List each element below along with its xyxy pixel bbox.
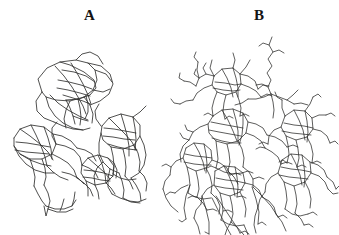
wire-segment — [313, 129, 330, 143]
wire-segment — [265, 173, 278, 192]
wire-segment — [106, 183, 115, 194]
wire-segment — [312, 161, 321, 163]
wire-segment — [295, 213, 304, 225]
wire-segment — [310, 162, 327, 177]
wire-segment — [46, 97, 83, 130]
wire-segment — [228, 171, 238, 184]
wire-segment — [305, 97, 313, 111]
wire-segment — [95, 185, 99, 199]
wire-segment — [203, 63, 206, 74]
wire-segment — [238, 141, 244, 167]
wire-segment — [242, 171, 253, 173]
wire-segment — [184, 81, 196, 86]
wire-segment — [235, 167, 238, 197]
wire-segment — [194, 69, 199, 78]
wire-segment — [86, 181, 88, 196]
panel-label-a: A — [84, 8, 95, 23]
wire-segment — [296, 140, 299, 167]
wire-segment — [20, 129, 53, 160]
wire-segment — [208, 109, 248, 144]
wire-segment — [216, 168, 242, 174]
wire-segment — [282, 100, 285, 116]
wire-segment — [201, 185, 214, 204]
wire-segment — [66, 100, 75, 124]
wire-segment — [42, 159, 46, 185]
wire-segment — [179, 219, 186, 222]
wire-group-A-cluster-lower-left — [14, 122, 98, 212]
wire-segment — [240, 74, 258, 89]
wire-segment — [240, 114, 249, 116]
wire-segment — [60, 199, 64, 211]
wire-group-A-cluster-lower-middle — [81, 155, 117, 199]
wire-segment — [261, 94, 272, 97]
wire-segment — [227, 144, 230, 171]
wire-segment — [103, 136, 135, 140]
wire-group-B-cluster-left-lower — [163, 143, 230, 214]
wire-segment — [233, 53, 235, 68]
wire-segment — [179, 73, 184, 81]
wire-segment — [271, 94, 294, 104]
wire-segment — [224, 166, 235, 196]
wire-segment — [162, 164, 171, 167]
wire-segment — [184, 162, 211, 165]
wire-segment — [84, 97, 93, 123]
wire-segment — [196, 74, 214, 86]
wire-segment — [307, 137, 313, 163]
wire-segment — [98, 155, 106, 183]
wire-segment — [212, 68, 241, 95]
wire-segment — [215, 82, 241, 85]
wire-segment — [48, 209, 73, 212]
wire-segment — [88, 63, 113, 105]
wire-segment — [197, 197, 207, 210]
wire-segment — [236, 92, 241, 116]
wire-segment — [123, 149, 126, 176]
wire-segment — [253, 187, 278, 217]
wire-segment — [256, 84, 268, 87]
wire-segment — [256, 147, 265, 149]
wire-segment — [278, 154, 311, 186]
wire-group-B-cluster-bottom-middle — [194, 166, 276, 233]
wire-segment — [294, 103, 308, 105]
wire-segment — [262, 197, 276, 214]
wire-segment — [268, 127, 281, 144]
wire-segment — [99, 133, 119, 173]
wire-segment — [221, 220, 244, 226]
wire-segment — [47, 166, 68, 180]
wire-group-B-upper-fringe — [210, 43, 308, 105]
wire-segment — [216, 178, 245, 183]
wire-segment — [171, 99, 180, 104]
wire-segment — [267, 37, 273, 94]
wire-segment — [258, 222, 266, 225]
wire-segment — [214, 166, 245, 196]
wire-segment — [297, 165, 306, 167]
panel-b-wireframe — [162, 37, 339, 235]
wire-segment — [240, 60, 250, 74]
wire-segment — [52, 154, 77, 178]
wire-segment — [134, 145, 140, 171]
wire-segment — [225, 116, 233, 119]
wire-segment — [204, 113, 213, 116]
wire-segment — [233, 68, 238, 97]
wire-segment — [254, 207, 258, 233]
wire-segment — [308, 212, 317, 215]
wire-segment — [133, 117, 136, 150]
wire-segment — [72, 192, 75, 206]
wire-segment — [216, 141, 218, 168]
wire-segment — [216, 196, 244, 235]
wire-segment — [14, 146, 54, 173]
wire-segment — [248, 122, 267, 135]
wire-segment — [119, 173, 124, 198]
wire-segment — [44, 127, 52, 159]
wire-segment — [244, 225, 248, 235]
wire-segment — [327, 177, 336, 189]
wire-group-B-side-chain-stubs — [162, 52, 339, 234]
wire-segment — [88, 158, 110, 179]
wire-segment — [121, 114, 129, 156]
wire-segment — [281, 162, 292, 164]
wire-group-A-cluster-lower-left-tail — [44, 192, 75, 216]
molecular-structure-canvas — [0, 0, 339, 235]
wire-segment — [15, 150, 49, 154]
wire-segment — [73, 116, 88, 121]
wire-segment — [14, 125, 56, 159]
wire-segment — [330, 141, 338, 144]
